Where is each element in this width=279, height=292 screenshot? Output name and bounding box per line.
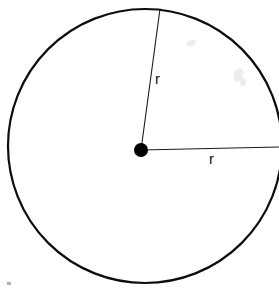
- figure-canvas: [0, 0, 279, 292]
- scan-speck-icon: [7, 282, 11, 285]
- radius-label-diagonal: r: [155, 71, 160, 86]
- scan-smudge-icon: [240, 78, 246, 86]
- center-point-dot: [134, 143, 148, 157]
- circle-radius-figure: r r: [0, 0, 279, 292]
- radius-label-horizontal: r: [209, 151, 214, 166]
